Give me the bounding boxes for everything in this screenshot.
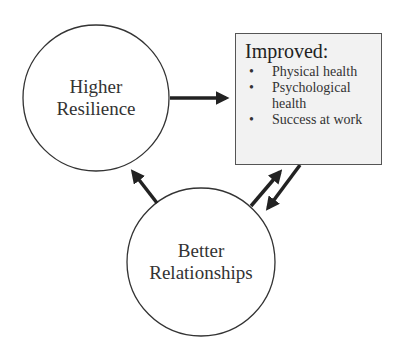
bullet-icon: • <box>249 80 254 96</box>
resilience-label-line2: Resilience <box>36 98 156 120</box>
outcomes-box: Improved: •Physical health •Psychologica… <box>235 33 382 165</box>
arrow-outcomes-to-relationships <box>268 165 300 208</box>
outcomes-list: •Physical health •Psychological health •… <box>245 64 373 128</box>
bullet-icon: • <box>249 112 254 128</box>
arrow-relationships-to-outcomes <box>251 172 280 206</box>
outcome-item: •Physical health <box>245 64 373 80</box>
bullet-icon: • <box>249 64 254 80</box>
outcome-text: Psychological health <box>272 80 351 111</box>
outcome-item: •Psychological health <box>245 80 373 112</box>
arrow-relationships-to-resilience <box>133 172 157 203</box>
outcome-text: Physical health <box>272 64 357 79</box>
resilience-label-line1: Higher <box>36 76 156 98</box>
relationships-label-line1: Better <box>136 240 266 262</box>
relationships-label: Better Relationships <box>136 240 266 284</box>
outcomes-title: Improved: <box>245 40 373 62</box>
outcome-item: •Success at work <box>245 112 373 128</box>
outcome-text: Success at work <box>272 112 362 127</box>
resilience-label: Higher Resilience <box>36 76 156 120</box>
relationships-label-line2: Relationships <box>136 262 266 284</box>
